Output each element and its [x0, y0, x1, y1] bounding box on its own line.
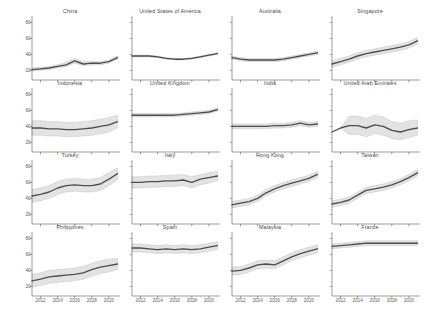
y-tick-label: 20 — [25, 284, 30, 289]
axes — [232, 88, 320, 152]
panel-title: India — [218, 80, 322, 87]
x-tick-label: 2020 — [204, 298, 214, 303]
chart-panel-australia: Australia — [218, 8, 322, 90]
y-tick-label: 40 — [25, 196, 30, 201]
axes — [232, 232, 320, 296]
small-multiples-figure: China20406080United States of AmericaAus… — [0, 0, 440, 313]
chart-panel-taiwan: Taiwan — [318, 152, 422, 234]
plot-area: 20122014201620182020 — [332, 232, 420, 296]
panel-title: China — [18, 8, 122, 15]
panel-title: Philippines — [18, 224, 122, 231]
plot-area — [232, 16, 320, 80]
panel-title: Indonesia — [18, 80, 122, 87]
chart-panel-malaysia: Malaysia20122014201620182020 — [218, 224, 322, 306]
plot-area: 20122014201620182020 — [132, 232, 220, 296]
plot-area — [332, 16, 420, 80]
chart-panel-hong-kong: Hong Kong — [218, 152, 322, 234]
x-tick-label: 2012 — [135, 298, 145, 303]
x-tick-label: 2014 — [353, 298, 363, 303]
panel-title: United Arab Emirates — [318, 80, 422, 87]
chart-panel-united-arab-emirates: United Arab Emirates — [318, 80, 422, 162]
panel-title: Malaysia — [218, 224, 322, 231]
y-tick-label: 40 — [25, 124, 30, 129]
chart-panel-philippines: Philippines2040608020122014201620182020 — [18, 224, 122, 306]
x-tick-label: 2016 — [370, 298, 380, 303]
chart-panel-turkey: Turkey20406080 — [18, 152, 122, 234]
panel-title: Singapore — [318, 8, 422, 15]
chart-panel-india: India — [218, 80, 322, 162]
panel-title: Spain — [118, 224, 222, 231]
panel-title: United Kingdom — [118, 80, 222, 87]
y-tick-label: 80 — [25, 236, 30, 241]
x-tick-label: 2020 — [104, 298, 114, 303]
x-tick-label: 2018 — [87, 298, 97, 303]
y-tick-label: 60 — [25, 252, 30, 257]
x-tick-label: 2018 — [287, 298, 297, 303]
y-tick-label: 80 — [25, 92, 30, 97]
y-tick-label: 80 — [25, 164, 30, 169]
panel-title: Taiwan — [318, 152, 422, 159]
chart-panel-indonesia: Indonesia20406080 — [18, 80, 122, 162]
chart-panel-china: China20406080 — [18, 8, 122, 90]
y-tick-label: 20 — [25, 140, 30, 145]
plot-area: 20406080 — [32, 88, 120, 152]
x-tick-label: 2014 — [253, 298, 263, 303]
plot-area — [132, 160, 220, 224]
panel-title: Italy — [118, 152, 222, 159]
x-tick-label: 2020 — [304, 298, 314, 303]
axes — [32, 88, 120, 152]
x-tick-label: 2016 — [270, 298, 280, 303]
axes — [132, 160, 220, 224]
panel-title: Hong Kong — [218, 152, 322, 159]
y-tick-label: 60 — [25, 108, 30, 113]
x-tick-label: 2020 — [404, 298, 414, 303]
y-tick-label: 20 — [25, 212, 30, 217]
plot-area — [132, 88, 220, 152]
x-tick-label: 2012 — [35, 298, 45, 303]
plot-area — [332, 88, 420, 152]
x-tick-label: 2014 — [153, 298, 163, 303]
panel-title: Australia — [218, 8, 322, 15]
chart-panel-france: France20122014201620182020 — [318, 224, 422, 306]
plot-area: 20406080 — [32, 160, 120, 224]
panel-title: Turkey — [18, 152, 122, 159]
chart-panel-united-states-of-america: United States of America — [118, 8, 222, 90]
panel-title: United States of America — [118, 8, 222, 15]
axes — [232, 160, 320, 224]
axes — [332, 88, 420, 152]
y-tick-label: 20 — [25, 68, 30, 73]
axes — [232, 16, 320, 80]
axes — [332, 16, 420, 80]
plot-area — [332, 160, 420, 224]
y-tick-label: 60 — [25, 180, 30, 185]
axes — [132, 16, 220, 80]
y-tick-label: 40 — [25, 268, 30, 273]
axes — [132, 232, 220, 296]
axes — [32, 232, 120, 296]
y-tick-label: 80 — [25, 20, 30, 25]
axes — [132, 88, 220, 152]
axes — [332, 232, 420, 296]
y-tick-label: 40 — [25, 52, 30, 57]
chart-panel-spain: Spain20122014201620182020 — [118, 224, 222, 306]
x-tick-label: 2018 — [387, 298, 397, 303]
x-tick-label: 2012 — [235, 298, 245, 303]
plot-area — [132, 16, 220, 80]
plot-area: 20406080 — [32, 16, 120, 80]
plot-area — [232, 88, 320, 152]
axes — [332, 160, 420, 224]
plot-area: 20122014201620182020 — [232, 232, 320, 296]
x-tick-label: 2016 — [170, 298, 180, 303]
panel-title: France — [318, 224, 422, 231]
plot-area: 2040608020122014201620182020 — [32, 232, 120, 296]
x-tick-label: 2012 — [335, 298, 345, 303]
x-tick-label: 2014 — [53, 298, 63, 303]
x-tick-label: 2016 — [70, 298, 80, 303]
chart-panel-italy: Italy — [118, 152, 222, 234]
chart-panel-singapore: Singapore — [318, 8, 422, 90]
axes — [32, 16, 120, 80]
axes — [32, 160, 120, 224]
x-tick-label: 2018 — [187, 298, 197, 303]
y-tick-label: 60 — [25, 36, 30, 41]
chart-panel-united-kingdom: United Kingdom — [118, 80, 222, 162]
